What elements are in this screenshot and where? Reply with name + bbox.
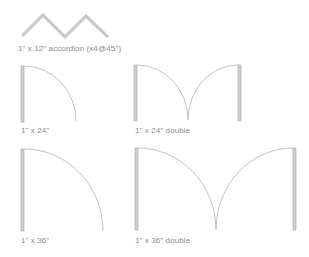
single-door-24-symbol[interactable] [21,66,76,122]
accordion-door-symbol[interactable] [22,15,108,37]
double-24-label: 1" x 24" double [135,126,190,135]
single-door-36-symbol[interactable] [21,149,103,231]
double-door-24-symbol[interactable] [134,65,241,121]
double-door-36-symbol[interactable] [135,148,296,230]
double-36-label: 1" x 36" double [135,236,190,245]
single-24-label: 1" x 24" [21,126,49,135]
single-36-label: 1" x 36" [21,236,49,245]
accordion-label: 1" x 12" accordion (x4@45°) [18,44,121,53]
